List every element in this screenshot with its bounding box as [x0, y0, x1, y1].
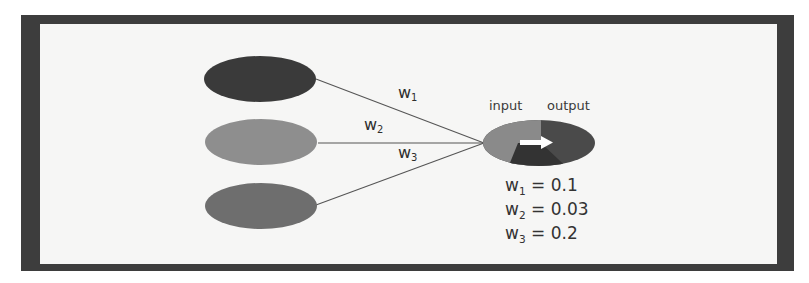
edge-label-index: 3: [411, 152, 417, 163]
weight-var: w: [505, 223, 519, 243]
weight-index: 1: [519, 185, 526, 197]
weight-index: 3: [519, 233, 526, 245]
output-node-output-label: output: [547, 99, 590, 112]
weight-value: = 0.2: [531, 223, 578, 243]
edge-label-w2: w2: [364, 117, 383, 133]
edge-label-var: w: [398, 143, 411, 162]
weight-equation-w1: w1 = 0.1: [505, 177, 578, 194]
neuron-diagram: [0, 0, 809, 283]
edge-label-w3: w3: [398, 145, 417, 161]
output-node-input-label: input: [489, 99, 522, 112]
edge-label-index: 1: [411, 92, 417, 103]
weight-value: = 0.1: [531, 175, 578, 195]
weight-equation-w2: w2 = 0.03: [505, 201, 589, 218]
weight-equation-w3: w3 = 0.2: [505, 225, 578, 242]
weight-value: = 0.03: [531, 199, 589, 219]
edge-label-index: 2: [377, 124, 383, 135]
weight-var: w: [505, 175, 519, 195]
weight-var: w: [505, 199, 519, 219]
weight-index: 2: [519, 209, 526, 221]
input-node-2: [205, 119, 317, 165]
input-node-1: [204, 56, 316, 102]
input-node-3: [205, 183, 317, 229]
edge-label-var: w: [364, 115, 377, 134]
edge-label-w1: w1: [398, 85, 417, 101]
edge-label-var: w: [398, 83, 411, 102]
